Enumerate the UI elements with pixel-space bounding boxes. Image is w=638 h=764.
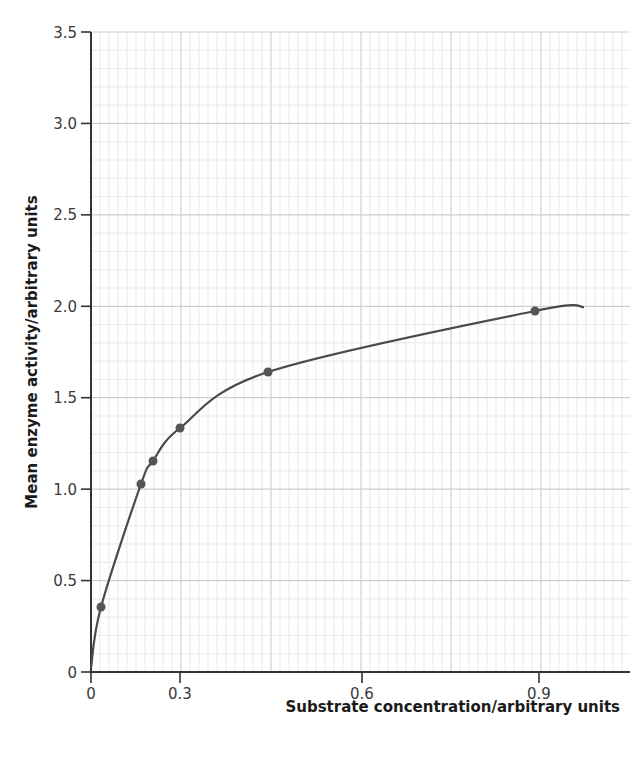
data-point <box>264 368 273 377</box>
y-axis-ticks: 00.51.01.52.02.53.03.5 <box>53 24 91 682</box>
y-tick-label: 3.0 <box>53 115 77 133</box>
fitted-curve <box>91 305 584 668</box>
y-tick-label: 2.5 <box>53 206 77 224</box>
y-tick-label: 1.0 <box>53 481 77 499</box>
grid <box>91 32 630 672</box>
axes <box>90 32 630 673</box>
data-point <box>137 480 146 489</box>
data-point <box>176 424 185 433</box>
x-tick-label: 0 <box>86 685 96 703</box>
data-point <box>531 307 540 316</box>
data-point <box>149 457 158 466</box>
x-axis-title: Substrate concentration/arbitrary units <box>285 698 620 716</box>
y-axis-title: Mean enzyme activity/arbitrary units <box>23 195 41 508</box>
y-tick-label: 3.5 <box>53 24 77 42</box>
y-tick-label: 2.0 <box>53 298 77 316</box>
data-point <box>97 603 106 612</box>
y-tick-label: 0.5 <box>53 572 77 590</box>
enzyme-activity-chart: 00.51.01.52.02.53.03.5 00.30.60.9 Substr… <box>0 0 638 764</box>
y-tick-label: 0 <box>67 664 77 682</box>
x-tick-label: 0.3 <box>168 685 192 703</box>
y-tick-label: 1.5 <box>53 389 77 407</box>
